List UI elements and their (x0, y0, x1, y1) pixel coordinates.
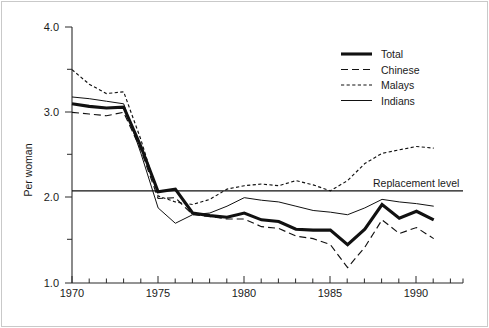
chart-legend: Total Chinese Malays Indians (341, 48, 420, 107)
y-tick-label-1: 1.0 (44, 277, 59, 289)
y-tick-label-3: 3.0 (44, 106, 59, 118)
x-axis-ticks (72, 276, 463, 283)
y-axis-title: Per woman (22, 143, 34, 196)
x-axis-tick-labels: 1970 1975 1980 1985 1990 (60, 287, 428, 299)
y-axis-tick-labels: 4.0 3.0 2.0 1.0 (44, 21, 59, 289)
fertility-rate-line-chart: 4.0 3.0 2.0 1.0 (0, 0, 489, 328)
series-group (72, 70, 434, 268)
legend-label-chinese: Chinese (381, 64, 420, 76)
chart-page: 4.0 3.0 2.0 1.0 (0, 0, 489, 328)
x-tick-label-1975: 1975 (146, 287, 170, 299)
legend-label-malays: Malays (381, 79, 414, 91)
x-tick-label-1985: 1985 (318, 287, 342, 299)
series-line-chinese (72, 112, 434, 267)
y-axis-ticks (65, 27, 72, 283)
x-tick-label-1980: 1980 (232, 287, 256, 299)
x-tick-label-1990: 1990 (404, 287, 428, 299)
x-tick-label-1970: 1970 (60, 287, 84, 299)
legend-label-total: Total (381, 48, 403, 60)
y-tick-label-2: 2.0 (44, 191, 59, 203)
y-tick-label-4: 4.0 (44, 21, 59, 33)
legend-label-indians: Indians (381, 95, 415, 107)
replacement-level-label: Replacement level (373, 177, 459, 189)
